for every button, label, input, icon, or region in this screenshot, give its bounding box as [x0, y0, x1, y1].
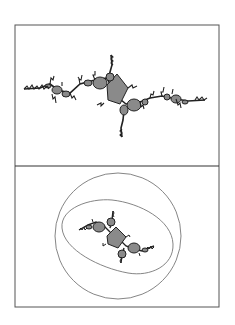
julia-set-figure — [0, 0, 235, 325]
top-julia-set — [24, 55, 207, 137]
bottom-julia-set — [79, 211, 154, 263]
